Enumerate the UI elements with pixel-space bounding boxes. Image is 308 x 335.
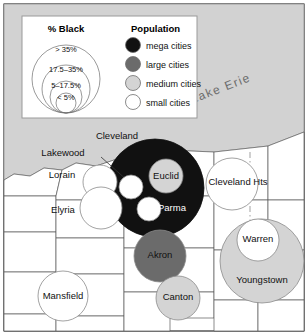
city-label-lorain: Lorain (49, 169, 75, 180)
city-label-euclid: Euclid (153, 170, 179, 181)
city-label-cleveland-hts: Cleveland Hts (208, 176, 267, 187)
legend-pct-black-title: % Black (48, 23, 85, 34)
map-canvas: Lake Erie (0, 0, 308, 335)
legend-swatch-medium (126, 76, 141, 91)
legend-label-mega: mega cities (146, 41, 192, 51)
legend-ring-label-0: > 35% (55, 45, 77, 54)
legend-ring-label-1: 17.5–35% (49, 65, 83, 74)
legend-swatch-mega (126, 38, 141, 53)
legend-ring-label-2: 5–17.5% (51, 81, 81, 90)
legend-ring-label-3: < 5% (57, 93, 75, 102)
legend-population-title: Population (131, 23, 180, 34)
city-label-warren: Warren (243, 233, 274, 244)
legend-label-small: small cities (146, 98, 191, 108)
legend-swatch-large (126, 57, 141, 72)
city-label-canton: Canton (163, 291, 194, 302)
city-label-youngstown: Youngstown (236, 274, 287, 285)
legend-swatch-small (126, 95, 141, 110)
city-circle-elyria (80, 187, 122, 229)
city-label-cleveland: Cleveland (96, 130, 138, 141)
city-bubble (119, 175, 143, 199)
city-label-lakewood: Lakewood (41, 147, 84, 158)
legend-panel: % Black > 35%17.5–35%5–17.5%< 5% Populat… (22, 16, 202, 118)
city-label-elyria: Elyria (51, 204, 75, 215)
city-bubble (80, 187, 122, 229)
thematic-map-figure: Lake Erie (0, 0, 308, 335)
city-label-mansfield: Mansfield (43, 290, 84, 301)
legend-label-large: large cities (146, 60, 190, 70)
legend-label-medium: medium cities (146, 79, 202, 89)
city-label-parma: Parma (158, 202, 187, 213)
city-label-akron: Akron (148, 249, 173, 260)
city-circle-lakewood (119, 175, 143, 199)
